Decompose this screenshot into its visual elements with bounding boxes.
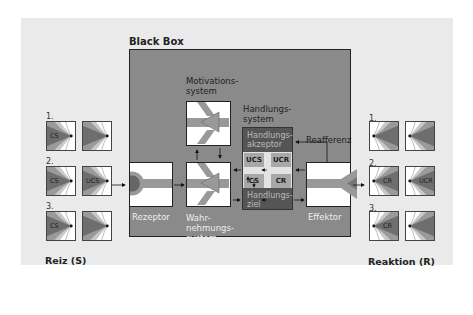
connection-arrows: [0, 0, 473, 315]
